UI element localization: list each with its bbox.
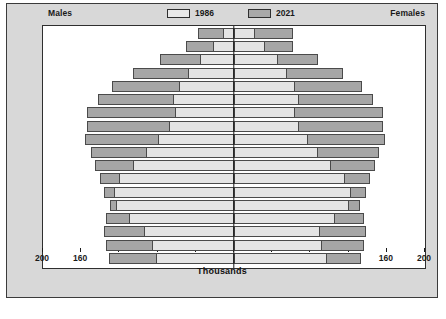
plot-area: [42, 25, 426, 269]
bar-females-1986: [234, 200, 349, 211]
bar-males-1986: [175, 107, 234, 118]
bar-females-1986: [234, 240, 322, 251]
bar-females-1986: [234, 121, 299, 132]
bar-females-1986: [234, 147, 318, 158]
x-axis-tick-label: 200: [35, 253, 49, 263]
population-pyramid-figure: Males 1986 2021 Females Thousands 0-45-9…: [0, 0, 446, 319]
x-axis-tick: [80, 248, 81, 252]
x-axis-tick: [424, 248, 425, 252]
chart-header: Males 1986 2021 Females: [7, 4, 437, 26]
legend-item-2021: 2021: [248, 8, 295, 18]
bar-females-1986: [234, 226, 320, 237]
bar-females-1986: [234, 187, 351, 198]
x-axis-title: Thousands: [7, 266, 437, 276]
bar-females-1986: [234, 54, 278, 65]
bar-males-1986: [129, 213, 234, 224]
bar-males-1986: [173, 94, 234, 105]
bar-males-1986: [200, 54, 234, 65]
bar-males-1986: [146, 147, 234, 158]
bar-males-1986: [114, 187, 234, 198]
bar-males-1986: [223, 28, 234, 39]
bar-females-1986: [234, 68, 287, 79]
bar-males-1986: [144, 226, 234, 237]
bar-females-1986: [234, 94, 299, 105]
females-side-label: Females: [390, 8, 425, 18]
bar-males-1986: [152, 240, 234, 251]
bar-males-1986: [213, 41, 234, 52]
bar-females-1986: [234, 134, 308, 145]
legend-swatch-1986-icon: [167, 9, 190, 18]
bar-males-1986: [119, 173, 234, 184]
bar-females-1986: [234, 253, 327, 264]
bar-females-1986: [234, 41, 265, 52]
bar-females-1986: [234, 107, 295, 118]
x-axis-tick-label: 200: [417, 253, 431, 263]
bar-females-1986: [234, 213, 335, 224]
center-axis-line: [233, 26, 234, 268]
x-axis-tick-label: 160: [73, 253, 87, 263]
bar-males-1986: [158, 134, 234, 145]
bar-males-1986: [156, 253, 234, 264]
legend-item-1986: 1986: [167, 8, 214, 18]
chart-legend: 1986 2021: [167, 8, 295, 18]
bar-females-1986: [234, 173, 345, 184]
x-axis-tick: [386, 248, 387, 252]
bar-females-1986: [234, 81, 295, 92]
x-axis-tick: [42, 248, 43, 252]
bar-males-1986: [133, 160, 234, 171]
legend-label-2021: 2021: [276, 8, 295, 18]
legend-label-1986: 1986: [195, 8, 214, 18]
x-axis-tick-label: 160: [379, 253, 393, 263]
bar-males-1986: [179, 81, 234, 92]
bar-males-1986: [116, 200, 234, 211]
bar-females-1986: [234, 160, 331, 171]
bar-males-1986: [169, 121, 234, 132]
bar-females-1986: [234, 28, 255, 39]
legend-swatch-2021-icon: [248, 9, 271, 18]
bar-males-1986: [188, 68, 234, 79]
males-side-label: Males: [48, 8, 72, 18]
chart-panel: Males 1986 2021 Females Thousands 0-45-9…: [6, 3, 438, 298]
